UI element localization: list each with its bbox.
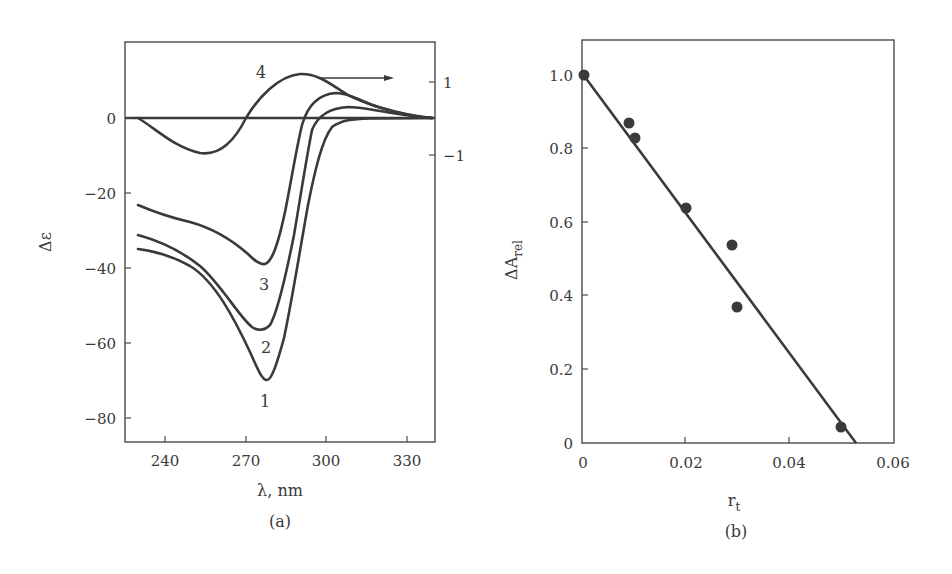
x-axis-labels: 0 0.02 0.04 0.06 — [578, 454, 909, 472]
x-axis-title: rt — [728, 491, 741, 514]
ytick-label: 1.0 — [549, 67, 573, 85]
ytick-label: −60 — [84, 335, 116, 353]
ytick-label: 0.4 — [549, 287, 573, 305]
xtick-label: 0.02 — [669, 454, 702, 472]
ytick-label: 0 — [106, 110, 116, 128]
arrow-to-right-axis — [318, 75, 394, 81]
data-point — [836, 422, 847, 433]
y-axis-left-labels: 0 −20 −40 −60 −80 — [84, 110, 116, 428]
data-point — [624, 118, 635, 129]
curve-2 — [138, 107, 432, 330]
data-point — [727, 240, 738, 251]
data-point — [630, 133, 641, 144]
chart-b-frame — [582, 40, 894, 443]
curve-1 — [138, 118, 432, 380]
xtick-label: 0.06 — [876, 454, 909, 472]
right-ytick-label: 1 — [443, 74, 453, 92]
panel-caption-b: (b) — [725, 522, 748, 541]
x-axis-title: λ, nm — [257, 481, 303, 500]
ytick-label: −20 — [84, 185, 116, 203]
xtick-label: 300 — [312, 452, 341, 470]
ytick-label: −40 — [84, 260, 116, 278]
curve-label-1: 1 — [260, 392, 270, 411]
right-ytick-label: −1 — [443, 147, 465, 165]
y-axis-left-ticks — [125, 118, 131, 418]
chart-b: 0 0.2 0.4 0.6 0.8 1.0 0 0.02 0.04 0.06 — [502, 40, 910, 541]
curve-label-3: 3 — [259, 275, 269, 294]
x-axis-labels: 240 270 300 330 — [151, 452, 422, 470]
ytick-label: 0 — [563, 435, 573, 453]
xtick-label: 0.04 — [772, 454, 805, 472]
curve-label-2: 2 — [261, 338, 271, 357]
x-axis-ticks — [685, 437, 789, 443]
y-axis-title: ΔArel — [502, 240, 525, 280]
y-axis-ticks — [582, 75, 588, 369]
panel-caption-a: (a) — [269, 512, 291, 531]
x-axis-ticks — [165, 436, 407, 442]
chart-a: 0 −20 −40 −60 −80 1 −1 240 270 300 330 λ… — [36, 42, 465, 531]
fit-line — [582, 73, 856, 443]
ytick-label: 0.6 — [549, 214, 573, 232]
y-axis-labels: 0 0.2 0.4 0.6 0.8 1.0 — [549, 67, 573, 453]
chart-a-frame — [125, 42, 435, 442]
ytick-label: 0.8 — [549, 140, 573, 158]
xtick-label: 330 — [393, 452, 422, 470]
xtick-label: 0 — [578, 454, 588, 472]
data-point — [681, 203, 692, 214]
xtick-label: 270 — [232, 452, 261, 470]
data-point — [732, 302, 743, 313]
figure: 0 −20 −40 −60 −80 1 −1 240 270 300 330 λ… — [0, 0, 952, 574]
ytick-label: 0.2 — [549, 361, 573, 379]
xtick-label: 240 — [151, 452, 180, 470]
ytick-label: −80 — [84, 410, 116, 428]
y-axis-title: Δε — [36, 232, 55, 252]
curve-label-4: 4 — [256, 63, 266, 82]
data-point — [579, 70, 590, 81]
